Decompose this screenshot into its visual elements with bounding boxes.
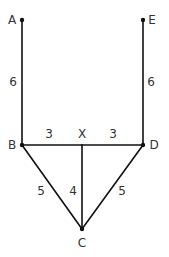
labels-group: 6633545AEBXDC [8,13,159,250]
node-e-dot [141,18,145,22]
node-label-c: C [78,236,86,250]
node-label-x: X [78,127,86,141]
edge-weight-d-c: 5 [118,184,126,198]
edge-weight-x-c: 4 [69,184,77,198]
edge-weight-b-c: 5 [37,184,45,198]
node-label-a: A [8,13,17,27]
node-label-b: B [8,138,16,152]
edge-weight-a-b: 6 [9,75,17,89]
node-d-dot [141,143,145,147]
node-label-d: D [149,138,158,152]
edge-weight-x-d: 3 [109,127,117,141]
edge-weight-b-x: 3 [45,127,53,141]
edge-d-c [82,145,143,229]
node-a-dot [20,18,24,22]
node-b-dot [20,143,24,147]
node-label-e: E [148,13,156,27]
graph-diagram: 6633545AEBXDC [0,0,169,257]
edge-weight-e-d: 6 [147,75,155,89]
node-c-dot [80,227,84,231]
